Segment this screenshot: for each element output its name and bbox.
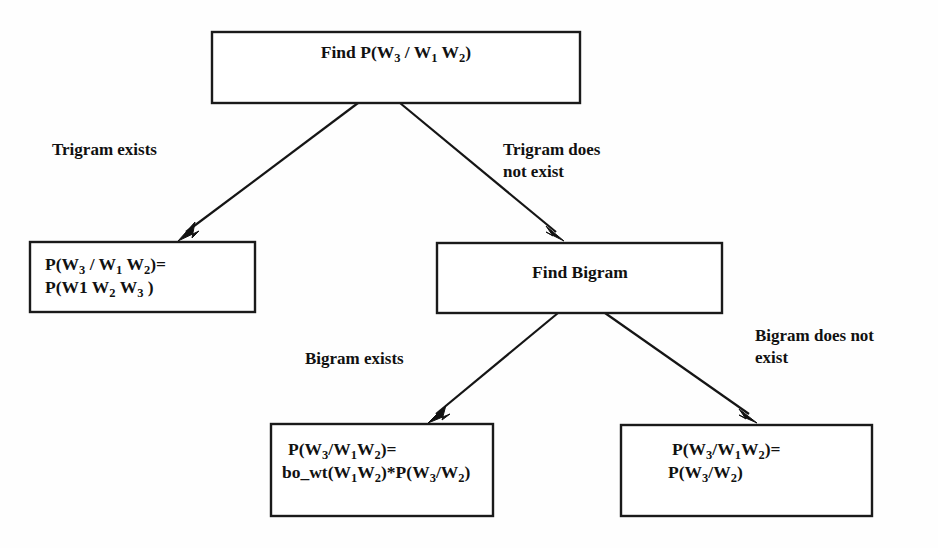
node-bigram-backoff-result[interactable]: P(W3/W1W2)= bo_wt(W1W2)*P(W3/W2) [271, 424, 493, 516]
edge-label-trigram-not-exist-line2: not exist [503, 162, 564, 181]
node-find-trigram-probability[interactable]: Find P(W3 / W1 W2) [212, 32, 580, 103]
edge-root-to-trigram-result [178, 103, 358, 241]
edge-label-trigram-exists: Trigram exists [52, 140, 157, 159]
arrow-head-bigram-not-exist [739, 409, 757, 423]
edge-label-bigram-not-exist-line2: exist [755, 348, 788, 367]
flowchart-page: Find P(W3 / W1 W2) P(W3 / W1 W2)= P(W1 W… [0, 0, 938, 548]
node-box-root [212, 32, 580, 103]
arrow-head-bigram-exists [428, 405, 450, 423]
edge-line-bigram-not-exist [605, 313, 749, 414]
node-trigram-probability-result[interactable]: P(W3 / W1 W2)= P(W1 W2 W3 ) [30, 242, 255, 312]
edge-label-bigram-not-exist-line1: Bigram does not [755, 326, 874, 345]
node-label-unigram-backoff-line1: P(W3/W1W2)= [672, 439, 780, 462]
flowchart-canvas: Find P(W3 / W1 W2) P(W3 / W1 W2)= P(W1 W… [0, 0, 938, 548]
edge-bigram-to-backoff [428, 313, 558, 423]
node-find-bigram[interactable]: Find Bigram [437, 243, 722, 313]
edge-line-trigram-exists [186, 103, 358, 232]
arrow-head-trigram-not-exist [546, 226, 564, 241]
edge-bigram-to-unigram [605, 313, 757, 423]
node-bigram-probability-result[interactable]: P(W3/W1W2)= P(W3/W2) [621, 425, 872, 516]
edge-line-bigram-exists [436, 313, 558, 414]
edge-label-bigram-exists: Bigram exists [305, 349, 404, 368]
node-label-bigram-backoff-line1: P(W3/W1W2)= [288, 439, 396, 462]
edge-label-trigram-not-exist-line1: Trigram does [503, 140, 601, 159]
node-label-find-bigram: Find Bigram [532, 262, 628, 282]
